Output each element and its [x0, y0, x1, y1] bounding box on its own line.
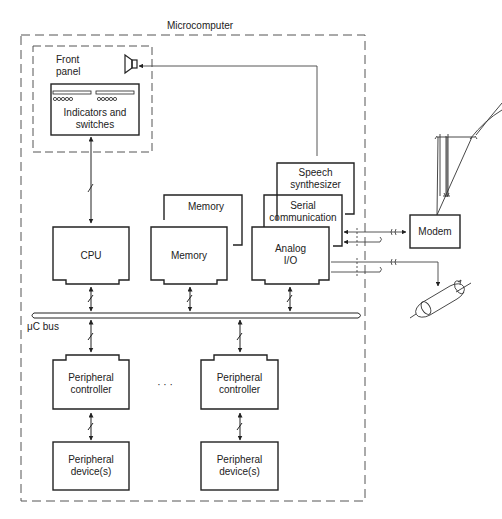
speech-synth-label: Speech synthesizer [277, 167, 354, 191]
serial-comm-label: Serial communication [264, 200, 342, 224]
analog-io-label: Analog I/O [252, 243, 329, 267]
ellipsis-label: · · · [145, 379, 185, 391]
uc-bus [32, 313, 361, 318]
memory-back-label: Memory [170, 201, 242, 213]
periph-ctrl-1-label: Peripheral controller [53, 372, 129, 396]
memory-front-label: Memory [151, 250, 227, 262]
microcomputer-title: Microcomputer [150, 20, 250, 32]
speaker-icon [125, 55, 137, 73]
periph-dev-1-label: Peripheral device(s) [53, 454, 129, 478]
periph-ctrl-2-label: Peripheral controller [201, 372, 278, 396]
front-panel-label: Front panel [56, 54, 80, 78]
indicators-switches-label: Indicators and switches [51, 107, 139, 131]
cpu-label: CPU [53, 250, 129, 262]
modem-label: Modem [410, 226, 460, 238]
telephone-pole-icon [435, 103, 502, 215]
motor-shaft-icon [410, 280, 471, 318]
bus-label: μC bus [27, 321, 59, 333]
periph-dev-2-label: Peripheral device(s) [201, 454, 278, 478]
